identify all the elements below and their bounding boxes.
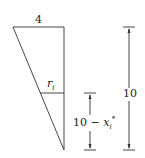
partial-sub: i bbox=[109, 123, 111, 131]
partial-height-label: 10 − xi* bbox=[73, 116, 115, 131]
top-width-label: 4 bbox=[35, 14, 42, 25]
radius-sub: i bbox=[52, 84, 54, 92]
hypotenuse bbox=[13, 27, 64, 150]
partial-sup: * bbox=[112, 115, 116, 123]
radius-label: ri bbox=[47, 78, 55, 92]
partial-prefix: 10 − bbox=[73, 116, 103, 129]
height-label: 10 bbox=[123, 88, 137, 99]
triangle-diagram bbox=[0, 0, 145, 158]
